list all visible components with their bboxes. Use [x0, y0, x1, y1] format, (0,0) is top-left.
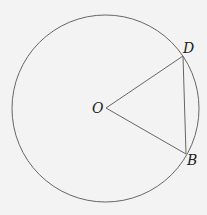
label-o: O [92, 100, 104, 116]
circle [12, 15, 199, 202]
segment-db [183, 56, 186, 154]
circle-diagram: O D B [0, 0, 207, 215]
segment-ob [106, 108, 186, 154]
segment-od [106, 56, 183, 108]
label-d: D [182, 40, 194, 56]
label-b: B [186, 152, 197, 168]
